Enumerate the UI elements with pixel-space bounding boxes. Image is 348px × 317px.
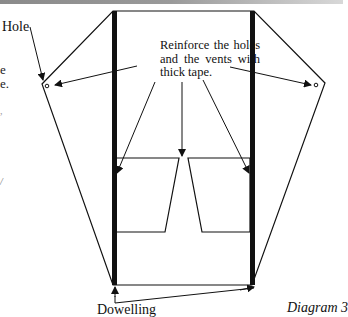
cut-off-text-fragment: e.	[0, 76, 9, 92]
left-vent	[116, 158, 179, 232]
cut-off-text-fragment: /	[0, 176, 3, 187]
left-dowel	[112, 11, 117, 285]
arrow-to-right-vent	[203, 80, 249, 173]
instruction-note: Reinforce the holes and the vents with t…	[160, 39, 260, 80]
right-vent	[188, 158, 250, 232]
hole-arrow	[30, 27, 43, 80]
right-hole	[314, 83, 318, 87]
dowelling-label: Dowelling	[97, 302, 156, 317]
dowelling-pointer-line	[115, 288, 254, 303]
hole-label: Hole	[2, 19, 29, 34]
diagram-caption: Diagram 3	[287, 300, 348, 315]
cut-off-text-fragment: ,	[0, 105, 3, 116]
left-hole	[45, 84, 49, 88]
arrow-to-left-hole	[55, 66, 137, 85]
arrow-to-left-vent	[117, 82, 155, 173]
